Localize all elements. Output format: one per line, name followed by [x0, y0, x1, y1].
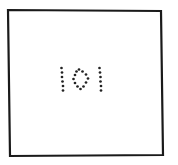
dot: [87, 77, 90, 80]
digit-1-0: [60, 67, 64, 92]
dot: [61, 71, 64, 74]
digit-1-2: [98, 67, 102, 92]
digit-0-1: [72, 68, 89, 90]
dot: [61, 80, 64, 83]
dot: [100, 89, 103, 92]
dot: [62, 85, 65, 88]
dot: [99, 71, 102, 74]
dot: [78, 68, 81, 71]
dot: [62, 89, 65, 92]
dotted-digits: [60, 67, 102, 92]
dot: [75, 70, 78, 73]
dot: [60, 67, 63, 70]
figure-canvas: [0, 0, 178, 165]
dot: [79, 88, 82, 91]
dot: [98, 67, 101, 70]
dot: [61, 76, 64, 79]
dot: [100, 85, 103, 88]
dot: [72, 78, 75, 81]
dot: [82, 85, 85, 88]
dot: [85, 81, 88, 84]
dot: [99, 76, 102, 79]
dot: [74, 74, 77, 77]
dot: [85, 73, 88, 76]
dot: [76, 85, 79, 88]
dot: [74, 82, 77, 85]
dot: [99, 80, 102, 83]
dot: [81, 70, 84, 73]
